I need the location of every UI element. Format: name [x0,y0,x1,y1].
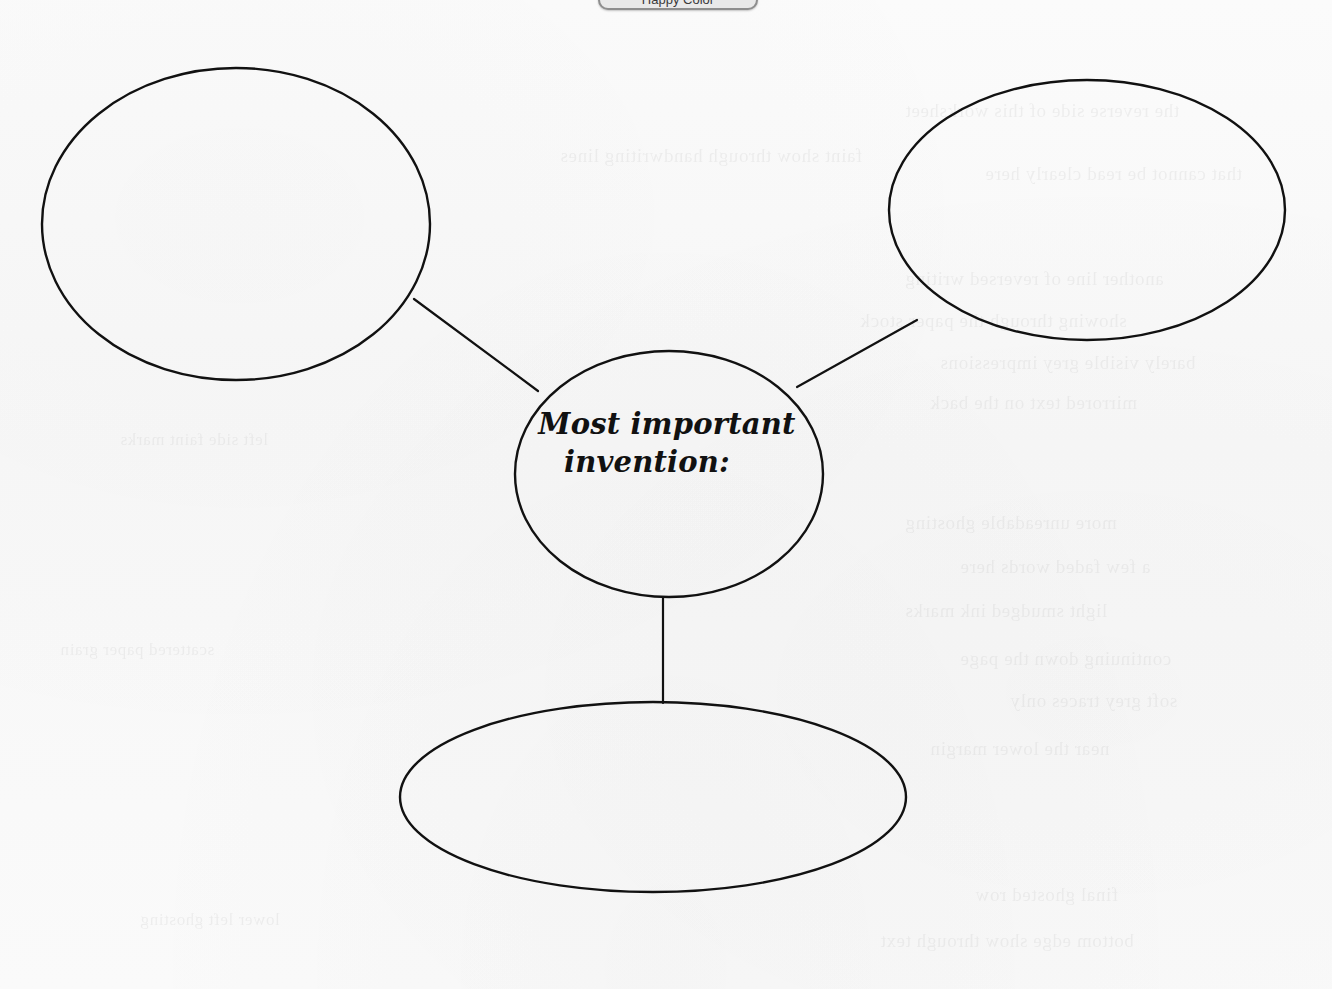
center-node-label-line-1: Most important [537,407,796,441]
center-node-label-line-2: invention: [564,445,730,479]
center-node[interactable]: Most important invention: [515,351,823,597]
top-toolbar-chip-label: Happy Color [600,0,756,7]
idea-web-diagram: Most important invention: [0,0,1332,989]
branch-node-top-right[interactable] [889,80,1285,340]
worksheet-page: the reverse side of this worksheetfaint … [0,0,1332,989]
branch-node-top-left[interactable] [42,68,430,380]
top-toolbar-chip[interactable]: Happy Color [598,0,758,10]
connector-center-to-top-right [797,320,917,387]
branch-node-bottom[interactable] [400,702,906,892]
connector-center-to-top-left [414,299,538,391]
